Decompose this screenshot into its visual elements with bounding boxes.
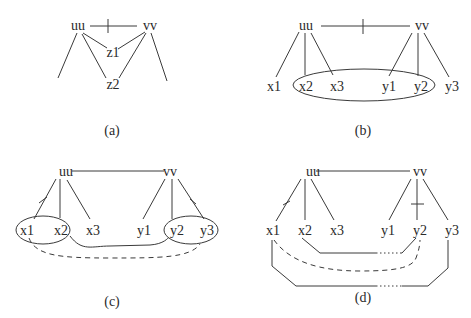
node-uu: uu [59,164,73,179]
node-vv: vv [163,164,177,179]
edge-x1-y3-path-end [402,240,448,286]
edge-uu-x3 [311,33,333,75]
node-x3: x3 [86,223,100,238]
edge-vv-y1 [389,179,411,220]
node-uu: uu [306,164,320,179]
caption-c: (c) [104,294,120,310]
node-y2: y2 [414,79,428,94]
node-x1: x1 [266,223,280,238]
edge-uu-z1 [83,33,107,48]
node-y2: y2 [170,223,184,238]
edge-vv-y1 [389,33,412,76]
edge-vv-y3 [424,33,449,77]
edge-vv-y3 [178,179,204,219]
edge-uu-x3 [67,180,90,219]
panel-b: uu vv x1 x2 x3 y1 y2 y3 (b) [267,18,459,139]
figure: uu vv z1 z2 (a) uu vv x1 x2 x3 y1 y2 y3 … [0,0,471,318]
panel-a: uu vv z1 z2 (a) [58,18,167,139]
edge-vv-y3 [423,179,448,220]
node-x2: x2 [298,223,312,238]
edge-x1-y3-path [272,240,376,286]
node-x2: x2 [299,79,313,94]
node-x3: x3 [330,79,344,94]
node-x3: x3 [330,223,344,238]
edge-uu-x3 [311,179,334,220]
edge-uu-x1 [276,32,299,77]
node-uu: uu [71,18,85,33]
caption-d: (d) [355,290,372,306]
edge-uu-z2 [82,34,106,78]
edge-uu-outer [58,33,77,78]
edge-x1-y2-dashed [274,240,420,271]
edge-uu-x1 [276,179,301,221]
node-z1: z1 [106,45,119,60]
node-vv: vv [413,164,427,179]
node-z2: z2 [106,77,119,92]
node-vv: vv [415,18,429,33]
caption-a: (a) [104,123,120,139]
caption-b: (b) [355,123,372,139]
panel-c: uu vv x1 x2 x3 y1 y2 y3 (c) [16,164,218,310]
node-y2: y2 [413,223,427,238]
node-y1: y1 [381,223,395,238]
edge-mark-x1 [283,201,290,205]
node-y3: y3 [445,223,459,238]
node-y3: y3 [200,223,214,238]
diagram-canvas: uu vv z1 z2 (a) uu vv x1 x2 x3 y1 y2 y3 … [0,0,471,318]
node-x2: x2 [54,223,68,238]
node-y1: y1 [382,79,396,94]
node-x1: x1 [20,223,34,238]
node-vv: vv [143,18,157,33]
node-y3: y3 [445,79,459,94]
node-y1: y1 [137,223,151,238]
panel-d: uu vv x1 x2 x3 y1 y2 y3 (d) [266,164,459,306]
edge-vv-y1 [143,179,165,219]
edge-vv-outer [151,33,167,81]
edge-mark-y3 [190,199,196,204]
node-x1: x1 [267,79,281,94]
edge-x2-y2-curve [70,236,169,247]
edge-x2-y2-path-end [400,238,416,253]
edge-x2-y2-path [302,238,376,253]
node-uu: uu [299,18,313,33]
